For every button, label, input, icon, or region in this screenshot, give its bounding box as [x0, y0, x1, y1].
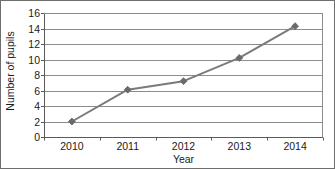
y-tick-label: 12 [19, 39, 40, 50]
x-tick-label: 2014 [283, 140, 306, 152]
gridlines [44, 14, 323, 123]
chart-canvas [44, 13, 323, 137]
x-tick-label: 2013 [228, 140, 251, 152]
x-axis-title: Year [44, 153, 323, 165]
data-series-line [72, 26, 295, 121]
y-tick-label: 6 [19, 85, 40, 96]
y-tick-label: 16 [19, 8, 40, 19]
data-series-markers [69, 23, 299, 125]
y-tick-label: 8 [19, 70, 40, 81]
y-axis-title: Number of pupils [1, 1, 19, 141]
x-tick-label: 2012 [172, 140, 195, 152]
y-tick-label: 14 [19, 23, 40, 34]
x-tick-label: 2010 [60, 140, 83, 152]
x-axis-tick-labels: 20102011201220132014 [44, 140, 323, 154]
y-axis-title-text: Number of pupils [4, 31, 16, 110]
plot-area [44, 13, 323, 137]
x-tick-label: 2011 [116, 140, 139, 152]
data-point-marker [180, 78, 187, 85]
chart-figure: Number of pupils 0246810121416 201020112… [0, 0, 335, 169]
y-axis-tick-labels: 0246810121416 [19, 1, 40, 169]
y-tick-label: 0 [19, 132, 40, 143]
y-tick-label: 2 [19, 116, 40, 127]
y-tick-label: 10 [19, 54, 40, 65]
series-path [72, 26, 295, 121]
axis-tick-marks [41, 14, 324, 141]
y-tick-label: 4 [19, 101, 40, 112]
